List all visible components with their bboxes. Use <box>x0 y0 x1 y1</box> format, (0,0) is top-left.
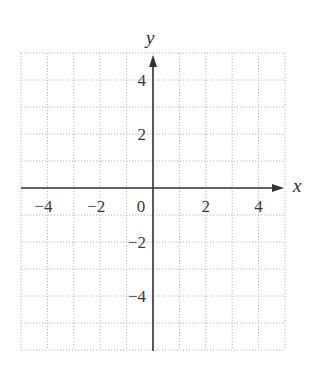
x-tick-label: −4 <box>34 197 53 216</box>
x-axis-label: x <box>292 175 302 196</box>
axes <box>21 55 284 351</box>
x-tick-label: −2 <box>87 197 105 216</box>
y-axis-arrow-icon <box>149 55 157 67</box>
coordinate-plane: −4−202442−2−4 x y <box>0 0 317 369</box>
y-tick-label: −2 <box>128 233 146 252</box>
y-tick-label: 2 <box>138 125 147 144</box>
y-axis-label: y <box>144 27 155 48</box>
y-tick-label: −4 <box>128 287 147 306</box>
x-axis-arrow-icon <box>272 184 284 192</box>
y-tick-label: 4 <box>138 71 147 90</box>
x-tick-label: 4 <box>254 197 263 216</box>
x-tick-label: 2 <box>202 197 211 216</box>
x-tick-label: 0 <box>137 197 146 216</box>
